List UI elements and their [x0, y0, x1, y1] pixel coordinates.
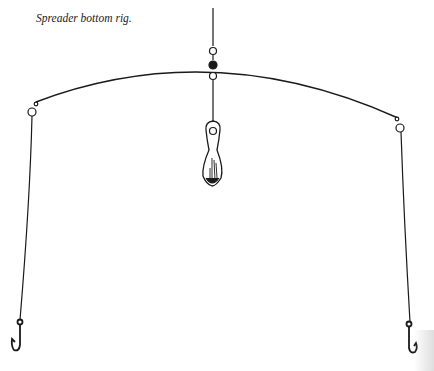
upper-swivel-icon: [210, 48, 217, 55]
lower-swivel-icon: [210, 73, 217, 80]
left-hook-icon: [12, 320, 23, 351]
illustration-page: Spreader bottom rig.: [0, 0, 434, 371]
center-bead-icon: [209, 61, 217, 69]
rig-illustration: [0, 0, 434, 371]
right-swivel-icon: [396, 124, 404, 132]
left-leader: [20, 116, 32, 320]
sinker-icon: [203, 121, 222, 186]
page-edge-shadow: [414, 330, 434, 371]
spreader-wire: [36, 72, 398, 118]
right-leader: [401, 132, 410, 322]
left-swivel-icon: [28, 108, 36, 116]
